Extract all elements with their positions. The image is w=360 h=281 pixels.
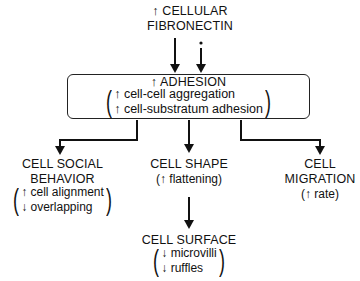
dot-marker xyxy=(199,41,202,44)
social-title-1: CELL SOCIAL xyxy=(0,157,125,172)
migration-title-1: CELL xyxy=(270,157,360,172)
shape-detail: (↑ flattening) xyxy=(139,172,239,187)
arrow-to-social xyxy=(60,120,137,148)
left-paren: ( xyxy=(13,185,19,215)
node-cell-shape: CELL SHAPE (↑ flattening) xyxy=(139,157,239,187)
left-paren: ( xyxy=(106,87,112,117)
surface-item: ↓ microvilli xyxy=(161,246,216,261)
adhesion-item: ↑ cell-cell aggregation xyxy=(114,87,263,102)
social-item: ↓ overlapping xyxy=(21,200,104,215)
node-fibronectin: ↑ CELLULAR FIBRONECTIN xyxy=(130,4,250,34)
fibronectin-line2: FIBRONECTIN xyxy=(130,19,250,34)
migration-title-2: MIGRATION xyxy=(270,172,360,187)
migration-detail: (↑ rate) xyxy=(270,187,360,202)
right-paren: ) xyxy=(219,246,225,276)
right-paren: ) xyxy=(265,87,271,117)
social-item: ↑ cell alignment xyxy=(21,185,104,200)
node-social-behavior: CELL SOCIAL BEHAVIOR ( ↑ cell alignment … xyxy=(0,157,125,215)
shape-title: CELL SHAPE xyxy=(139,157,239,172)
fibronectin-line1: ↑ CELLULAR xyxy=(130,4,250,19)
node-cell-surface: CELL SURFACE ( ↓ microvilli ↓ ruffles ) xyxy=(129,233,249,276)
arrow-to-migration xyxy=(241,120,320,148)
node-cell-migration: CELL MIGRATION (↑ rate) xyxy=(270,157,360,202)
right-paren: ) xyxy=(106,185,112,215)
adhesion-item: ↑ cell-substratum adhesion xyxy=(114,102,263,117)
node-adhesion: ↑ ADHESION ( ↑ cell-cell aggregation ↑ c… xyxy=(67,74,310,117)
left-paren: ( xyxy=(153,246,159,276)
surface-item: ↓ ruffles xyxy=(161,261,216,276)
